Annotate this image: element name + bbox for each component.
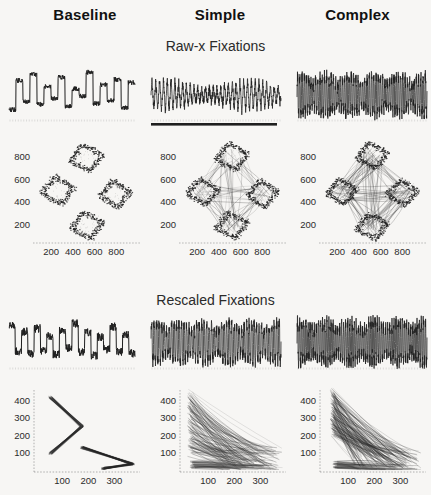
trajectory-path [49, 397, 80, 453]
trace-axis-hatch [152, 368, 280, 370]
y-tick-label: 100 [14, 447, 30, 458]
plot-rescaled-trace-baseline [8, 312, 136, 370]
y-tick-label: 300 [160, 412, 176, 423]
scatter-svg: 100200300100200300400 [148, 386, 288, 490]
fixation-cluster [326, 178, 359, 205]
scatter-svg: 200400600800200400600800 [148, 136, 288, 262]
y-tick-label: 200 [300, 219, 316, 230]
trajectory-path [51, 398, 81, 453]
y-tick-label: 200 [14, 219, 30, 230]
trajectory-path [49, 396, 82, 454]
scatter-data [40, 144, 133, 240]
trace-path [297, 315, 427, 369]
column-header-simple: Simple [160, 6, 280, 23]
section-title-rescaled-fixations: Rescaled Fixations [0, 292, 431, 308]
y-tick-label: 300 [14, 412, 30, 423]
trace-axis-hatch [10, 120, 134, 122]
column-header-baseline: Baseline [20, 6, 150, 23]
plot-raw-scatter-complex: 200400600800200400600800 [288, 136, 428, 262]
trajectory-path [49, 397, 83, 454]
x-tick-label: 200 [226, 475, 242, 486]
y-tick-label: 800 [160, 151, 176, 162]
trace-axis-hatch [298, 120, 426, 122]
trace-axis-hatch [152, 120, 280, 122]
trajectory-path [49, 398, 81, 454]
trace-svg [150, 64, 282, 130]
plot-rescaled-scatter-baseline: 100200300100200300400 [2, 386, 142, 490]
trajectory-path [51, 396, 82, 454]
plot-raw-trace-baseline [8, 64, 136, 122]
x-tick-label: 600 [233, 246, 249, 257]
trajectory-path [52, 398, 81, 455]
y-tick-label: 200 [300, 430, 316, 441]
trajectory-path [243, 199, 262, 218]
x-tick-label: 600 [373, 246, 389, 257]
trajectory-path [50, 398, 81, 454]
x-tick-label: 200 [366, 475, 382, 486]
trajectory-path [49, 398, 82, 454]
scatter-svg: 100200300100200300400 [2, 386, 142, 490]
trace-svg [150, 312, 282, 370]
trajectory-path [191, 393, 273, 448]
column-header-complex: Complex [295, 6, 420, 23]
plot-raw-trace-simple [150, 64, 282, 130]
y-tick-label: 600 [160, 174, 176, 185]
x-tick-label: 200 [189, 246, 205, 257]
plot-rescaled-scatter-complex: 100200300100200300400 [288, 386, 428, 490]
trajectory-path [51, 398, 80, 455]
trace-path [9, 70, 135, 112]
trajectory-path [49, 398, 81, 455]
x-tick-label: 400 [211, 246, 227, 257]
trajectory-path [49, 397, 81, 453]
trajectory-path [49, 398, 83, 454]
trace-svg [8, 312, 136, 370]
section-title-raw-x-fixations: Raw-x Fixations [0, 38, 431, 54]
trajectory-path [49, 398, 83, 453]
y-tick-label: 200 [160, 219, 176, 230]
y-tick-label: 800 [14, 151, 30, 162]
y-tick-label: 400 [14, 395, 30, 406]
trajectory-path [49, 398, 83, 453]
x-tick-label: 200 [329, 246, 345, 257]
x-tick-label: 100 [200, 475, 216, 486]
y-tick-label: 600 [300, 174, 316, 185]
x-tick-label: 300 [107, 475, 123, 486]
y-tick-label: 200 [160, 430, 176, 441]
scatter-data [186, 142, 279, 240]
plot-raw-scatter-simple: 200400600800200400600800 [148, 136, 288, 262]
trajectory-path [50, 396, 83, 453]
scatter-data [49, 396, 135, 470]
x-tick-label: 100 [54, 475, 70, 486]
trace-svg [296, 64, 428, 122]
column-headers: Baseline Simple Complex [0, 6, 431, 28]
y-tick-label: 400 [300, 395, 316, 406]
plot-raw-trace-complex [296, 64, 428, 122]
trace-path [151, 78, 281, 115]
plot-rescaled-trace-simple [150, 312, 282, 370]
y-tick-label: 200 [14, 430, 30, 441]
trajectory-path [50, 398, 82, 453]
fixation-cluster [40, 174, 77, 206]
scatter-data [326, 142, 419, 241]
scatter-svg: 200400600800200400600800 [288, 136, 428, 262]
trajectory-path [49, 398, 83, 455]
x-tick-label: 300 [253, 475, 269, 486]
y-tick-label: 400 [14, 196, 30, 207]
scatter-data [330, 388, 421, 470]
trajectory-path [50, 397, 80, 455]
y-tick-label: 100 [300, 447, 316, 458]
x-tick-label: 200 [80, 475, 96, 486]
plot-rescaled-scatter-simple: 100200300100200300400 [148, 386, 288, 490]
trajectory-path [50, 397, 80, 454]
trajectory-path [51, 398, 84, 454]
trace-axis-hatch [298, 368, 426, 370]
scatter-svg: 100200300100200300400 [288, 386, 428, 490]
y-tick-label: 800 [300, 151, 316, 162]
x-tick-label: 100 [340, 475, 356, 486]
trajectory-path [51, 396, 83, 454]
x-tick-label: 400 [351, 246, 367, 257]
trace-baseline-bar [151, 123, 277, 126]
x-tick-label: 800 [394, 246, 410, 257]
trajectory-path [379, 201, 406, 235]
y-tick-label: 400 [160, 395, 176, 406]
